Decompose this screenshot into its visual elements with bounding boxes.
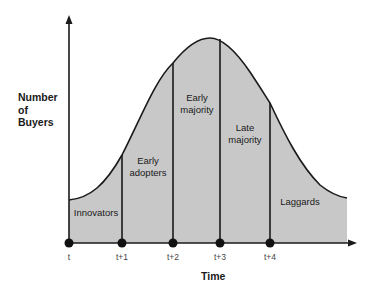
y-label-line: of xyxy=(18,104,58,117)
tick-dot-t1 xyxy=(118,239,127,248)
y-label-line: Number xyxy=(18,91,58,104)
tick-label-t4: t+4 xyxy=(264,252,276,262)
x-axis-arrow-icon xyxy=(348,240,357,247)
segment-innovators: Innovators xyxy=(72,207,120,219)
tick-label-t2: t+2 xyxy=(167,252,179,262)
segment-label: adopters xyxy=(124,167,172,179)
tick-dot-t xyxy=(65,239,74,248)
tick-dot-t2 xyxy=(169,239,178,248)
tick-label-t1: t+1 xyxy=(116,252,128,262)
segment-early-majority: Early majority xyxy=(175,92,219,116)
x-axis-label: Time xyxy=(201,270,225,282)
segment-label: Innovators xyxy=(72,207,120,219)
segment-label: Laggards xyxy=(274,196,326,208)
segment-late-majority: Late majority xyxy=(222,122,268,146)
y-axis-arrow-icon xyxy=(66,15,73,24)
segment-label: Early xyxy=(124,155,172,167)
tick-dot-t3 xyxy=(216,239,225,248)
segment-label: Late xyxy=(222,122,268,134)
segment-laggards: Laggards xyxy=(274,196,326,208)
tick-dot-t4 xyxy=(266,239,275,248)
segment-label: majority xyxy=(175,104,219,116)
segment-label: majority xyxy=(222,134,268,146)
tick-label-t3: t+3 xyxy=(214,252,226,262)
y-axis-label: Number of Buyers xyxy=(18,91,58,129)
tick-label-t: t xyxy=(68,252,70,262)
y-label-line: Buyers xyxy=(18,116,58,129)
segment-label: Early xyxy=(175,92,219,104)
segment-early-adopters: Early adopters xyxy=(124,155,172,179)
adoption-curve-diagram xyxy=(0,0,370,294)
